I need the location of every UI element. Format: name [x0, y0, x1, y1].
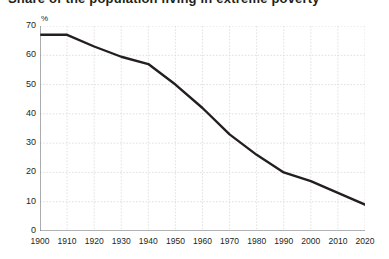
- x-axis-tick-1930: 1930: [112, 236, 131, 246]
- chart-figure: Share of the population living in extrem…: [0, 0, 389, 259]
- plot-area: [40, 26, 365, 231]
- x-axis-tick-1970: 1970: [220, 236, 239, 246]
- x-axis-tick-1920: 1920: [85, 236, 104, 246]
- x-axis-tick-1910: 1910: [58, 236, 77, 246]
- x-axis-tick-1900: 1900: [31, 236, 50, 246]
- x-axis-tick-1940: 1940: [139, 236, 158, 246]
- gridlines: [40, 26, 365, 231]
- line-chart-svg: [40, 26, 365, 231]
- x-axis-tick-1960: 1960: [193, 236, 212, 246]
- x-axis-tick-1980: 1980: [247, 236, 266, 246]
- x-axis-tick-2010: 2010: [328, 236, 347, 246]
- x-axis-tick-1990: 1990: [274, 236, 293, 246]
- x-axis-tick-1950: 1950: [166, 236, 185, 246]
- x-axis-tick-2000: 2000: [301, 236, 320, 246]
- x-axis-tick-2020: 2020: [356, 236, 375, 246]
